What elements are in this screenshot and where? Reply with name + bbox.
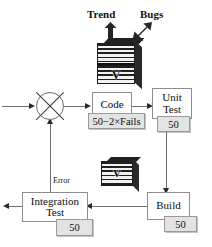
bugs-label: Bugs bbox=[140, 8, 163, 20]
arrowhead-junction-to-code bbox=[85, 103, 91, 109]
node-build-label: Build bbox=[155, 200, 181, 211]
node-code-label: Code bbox=[99, 99, 124, 110]
summing-junction[interactable] bbox=[36, 92, 64, 120]
node-integration-test[interactable]: Integration Test bbox=[22, 192, 88, 222]
build-value: 50 bbox=[175, 219, 186, 230]
unit-test-value: 50 bbox=[168, 119, 179, 130]
wire-build-to-integration-test bbox=[88, 206, 148, 207]
integration-test-value-chip: 50 bbox=[56, 219, 93, 236]
node-unit-test-label-line2: Test bbox=[162, 104, 182, 115]
wire-input-to-junction bbox=[2, 106, 30, 107]
node-unit-test-label-line1: Unit bbox=[161, 92, 183, 103]
error-label: Error bbox=[53, 176, 70, 185]
unit-test-value-chip: 50 bbox=[157, 116, 190, 132]
bugs-arrow-icon bbox=[130, 20, 154, 44]
integration-test-value: 50 bbox=[69, 222, 80, 233]
wire-junction-to-code bbox=[64, 106, 87, 107]
stack-top-v-label: V bbox=[97, 66, 135, 83]
trend-arrow-icon bbox=[104, 22, 117, 38]
wire-error-feedback bbox=[50, 120, 51, 193]
diagram-canvas: Trend Bugs V bbox=[0, 0, 212, 247]
node-integration-test-label-line2: Test bbox=[45, 207, 65, 218]
trend-label: Trend bbox=[87, 8, 115, 20]
code-formula-chip: 50−2×Fails bbox=[88, 113, 145, 129]
node-unit-test[interactable]: Unit Test bbox=[152, 88, 192, 119]
stack-middle-icon: V bbox=[101, 157, 143, 191]
arrowhead-integration-test-to-output bbox=[3, 203, 9, 209]
stack-top-icon: V bbox=[97, 38, 145, 86]
build-value-chip: 50 bbox=[164, 216, 197, 232]
code-formula-value: 50−2×Fails bbox=[92, 116, 140, 127]
stack-middle-v-label: V bbox=[101, 164, 133, 183]
arrowhead-input-to-junction bbox=[29, 103, 35, 109]
